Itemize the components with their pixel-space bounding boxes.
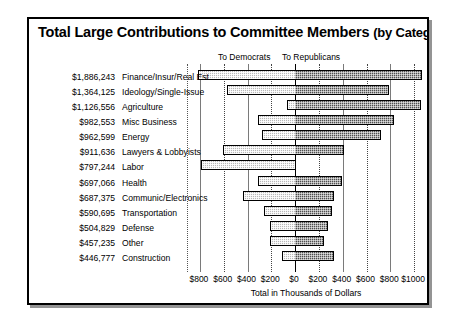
category-total: $1,886,243 — [29, 72, 115, 82]
category-label: Health — [122, 178, 147, 188]
category-total: $457,235 — [29, 238, 115, 248]
x-axis-title: Total in Thousands of Dollars — [187, 288, 425, 298]
category-row: $590,695Transportation — [29, 206, 427, 221]
category-total: $797,244 — [29, 162, 115, 172]
category-row: $687,375Communic/Electronics — [29, 191, 427, 206]
category-row: $797,244Labor — [29, 160, 427, 175]
category-label: Transportation — [122, 208, 177, 218]
x-tick-label: $400 — [332, 274, 351, 284]
category-row: $446,777Construction — [29, 251, 427, 266]
category-label: Communic/Electronics — [122, 193, 207, 203]
category-label: Lawyers & Lobbyists — [122, 147, 201, 157]
x-tick-label: $800 — [380, 274, 399, 284]
category-total: $1,126,556 — [29, 102, 115, 112]
x-tick-label: $0 — [289, 274, 298, 284]
category-total: $982,553 — [29, 117, 115, 127]
category-total: $697,066 — [29, 178, 115, 188]
category-label: Defense — [122, 223, 154, 233]
category-row: $1,126,556Agriculture — [29, 100, 427, 115]
category-total: $687,375 — [29, 193, 115, 203]
category-row: $962,599Energy — [29, 130, 427, 145]
category-row: $697,066Health — [29, 176, 427, 191]
x-axis-ticks: $800$600$400$200$0$200$400$600$800$1000 — [187, 274, 425, 288]
category-row: $911,636Lawyers & Lobbyists — [29, 145, 427, 160]
category-total: $962,599 — [29, 132, 115, 142]
category-label: Construction — [122, 253, 170, 263]
chart-title-main: Total Large Contributions to Committee M… — [38, 24, 369, 40]
category-total: $1,364,125 — [29, 87, 115, 97]
x-tick-label: $1000 — [401, 274, 425, 284]
x-tick-label: $800 — [189, 274, 208, 284]
chart-panel: Total Large Contributions to Committee M… — [27, 17, 429, 305]
category-label: Labor — [122, 162, 144, 172]
category-row: $982,553Misc Business — [29, 115, 427, 130]
chart-title-sub: (by Category) — [373, 25, 429, 40]
x-tick-label: $600 — [356, 274, 375, 284]
category-row: $457,235Other — [29, 236, 427, 251]
category-total: $590,695 — [29, 208, 115, 218]
x-tick-label: $400 — [237, 274, 256, 284]
category-rows: $1,886,243Finance/Insur/Real Est$1,364,1… — [29, 70, 427, 266]
category-label: Agriculture — [122, 102, 163, 112]
legend-label-democrats: To Democrats — [218, 52, 270, 62]
category-label: Misc Business — [122, 117, 177, 127]
chart-title: Total Large Contributions to Committee M… — [38, 24, 426, 40]
category-total: $446,777 — [29, 253, 115, 263]
category-row: $1,364,125Ideology/Single-Issue — [29, 85, 427, 100]
category-row: $1,886,243Finance/Insur/Real Est — [29, 70, 427, 85]
category-label: Energy — [122, 132, 149, 142]
category-label: Ideology/Single-Issue — [122, 87, 204, 97]
category-total: $504,829 — [29, 223, 115, 233]
x-tick-label: $600 — [213, 274, 232, 284]
x-tick-label: $200 — [308, 274, 327, 284]
category-label: Other — [122, 238, 144, 248]
category-label: Finance/Insur/Real Est — [122, 72, 209, 82]
category-row: $504,829Defense — [29, 221, 427, 236]
category-total: $911,636 — [29, 147, 115, 157]
legend-label-republicans: To Republicans — [282, 52, 340, 62]
x-tick-label: $200 — [261, 274, 280, 284]
